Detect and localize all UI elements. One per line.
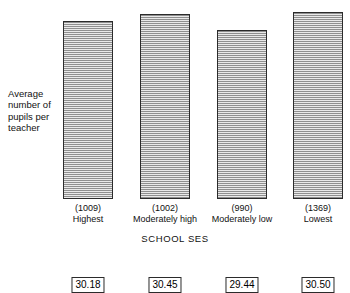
bar-lowest[interactable] [293, 12, 343, 199]
bar-moderately-high[interactable] [140, 14, 190, 199]
x-axis-title: SCHOOL SES [0, 233, 350, 244]
x-tick-count-lowest: (1369) [258, 203, 350, 214]
bar-value-label-highest: 30.18 [71, 277, 104, 293]
bar-highest[interactable] [63, 21, 113, 199]
x-tick-label-lowest: (1369) Lowest [258, 203, 350, 225]
bar-moderately-low[interactable] [217, 30, 267, 199]
bar-value-label-lowest: 30.50 [301, 277, 334, 293]
bar-value-label-moderately-low: 29.44 [225, 277, 258, 293]
x-tick-name-lowest: Lowest [258, 214, 350, 225]
bar-value-label-moderately-high: 30.45 [148, 277, 181, 293]
plot-area: 30.18 30.45 29.44 30.50 [0, 0, 350, 199]
